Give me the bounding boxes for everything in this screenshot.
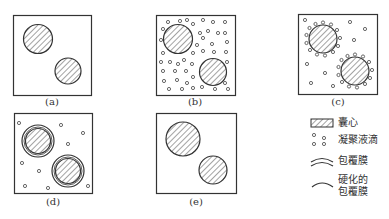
panel-d xyxy=(15,114,93,194)
legend-symbols xyxy=(311,119,333,187)
legend-core-label: 囊心 xyxy=(338,117,358,129)
panel-b-label: (b) xyxy=(180,96,210,107)
legend-droplet-icon xyxy=(312,133,325,145)
panel-a xyxy=(14,16,92,96)
legend-droplets-label: 凝聚液滴 xyxy=(338,134,378,146)
legend-core-icon xyxy=(311,119,333,127)
core-icon xyxy=(24,25,53,54)
legend-membrane-label: 包覆膜 xyxy=(338,155,368,167)
panel-b xyxy=(157,16,236,96)
core-icon xyxy=(55,58,81,84)
legend-hardened-membrane-icon xyxy=(312,183,333,187)
panel-c xyxy=(299,15,378,95)
panel-a-label: (a) xyxy=(37,96,67,107)
legend-membrane-icon xyxy=(311,159,333,167)
legend-hardened-label-1: 硬化的 xyxy=(338,174,368,186)
diagram-canvas xyxy=(0,0,389,219)
panel-e-label: (e) xyxy=(181,196,211,207)
legend-hardened-label-2: 包覆膜 xyxy=(338,186,368,198)
panel-e xyxy=(157,114,237,194)
panel-c-label: (c) xyxy=(323,96,353,107)
panel-d-label: (d) xyxy=(38,196,68,207)
